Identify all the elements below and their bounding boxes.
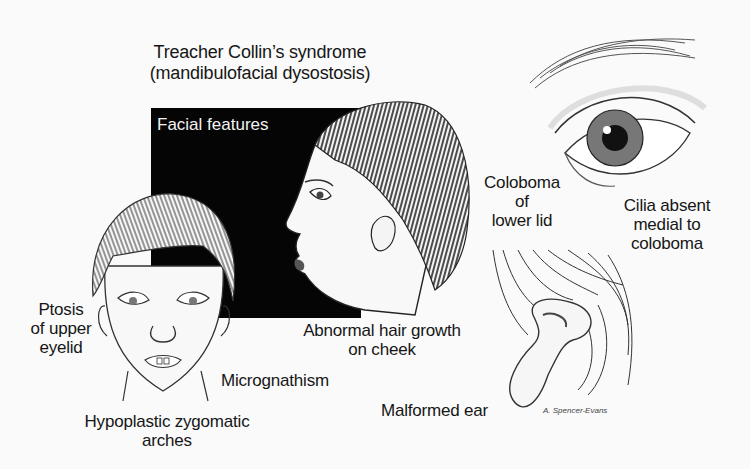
hypoplastic-line-1: Hypoplastic zygomatic (62, 412, 272, 431)
label-ptosis: Ptosis of upper eyelid (22, 300, 100, 357)
cilia-line-3: coloboma (612, 234, 722, 253)
title-line-1: Treacher Collin’s syndrome (140, 42, 380, 63)
diagram-canvas: Treacher Collin’s syndrome (mandibulofac… (0, 0, 750, 469)
coloboma-line-1: Coloboma (476, 173, 568, 192)
abnormal-hair-line-2: on cheek (284, 340, 480, 359)
cilia-line-2: medial to (612, 215, 722, 234)
cilia-line-1: Cilia absent (612, 196, 722, 215)
coloboma-line-3: lower lid (476, 211, 568, 230)
label-abnormal-hair-growth: Abnormal hair growth on cheek (284, 321, 480, 359)
title-line-2: (mandibulofacial dysostosis) (140, 63, 380, 84)
ptosis-line-3: eyelid (22, 338, 100, 357)
profile-face-illustration (275, 100, 475, 320)
artist-signature: A. Spencer-Evans (542, 406, 607, 415)
label-micrognathism: Micrognathism (221, 371, 329, 390)
label-malformed-ear: Malformed ear (381, 401, 488, 420)
diagram-title: Treacher Collin’s syndrome (mandibulofac… (140, 42, 380, 84)
abnormal-hair-line-1: Abnormal hair growth (284, 321, 480, 340)
ptosis-line-1: Ptosis (22, 300, 100, 319)
label-hypoplastic-zygomatic-arches: Hypoplastic zygomatic arches (62, 412, 272, 450)
panel-title: Facial features (157, 115, 269, 135)
coloboma-line-2: of (476, 192, 568, 211)
label-cilia-absent: Cilia absent medial to coloboma (612, 196, 722, 253)
hypoplastic-line-2: arches (62, 431, 272, 450)
frontal-face-illustration (83, 186, 243, 406)
label-coloboma-lower-lid: Coloboma of lower lid (476, 173, 568, 230)
ptosis-line-2: of upper (22, 319, 100, 338)
malformed-ear-illustration: A. Spencer-Evans (488, 245, 638, 425)
